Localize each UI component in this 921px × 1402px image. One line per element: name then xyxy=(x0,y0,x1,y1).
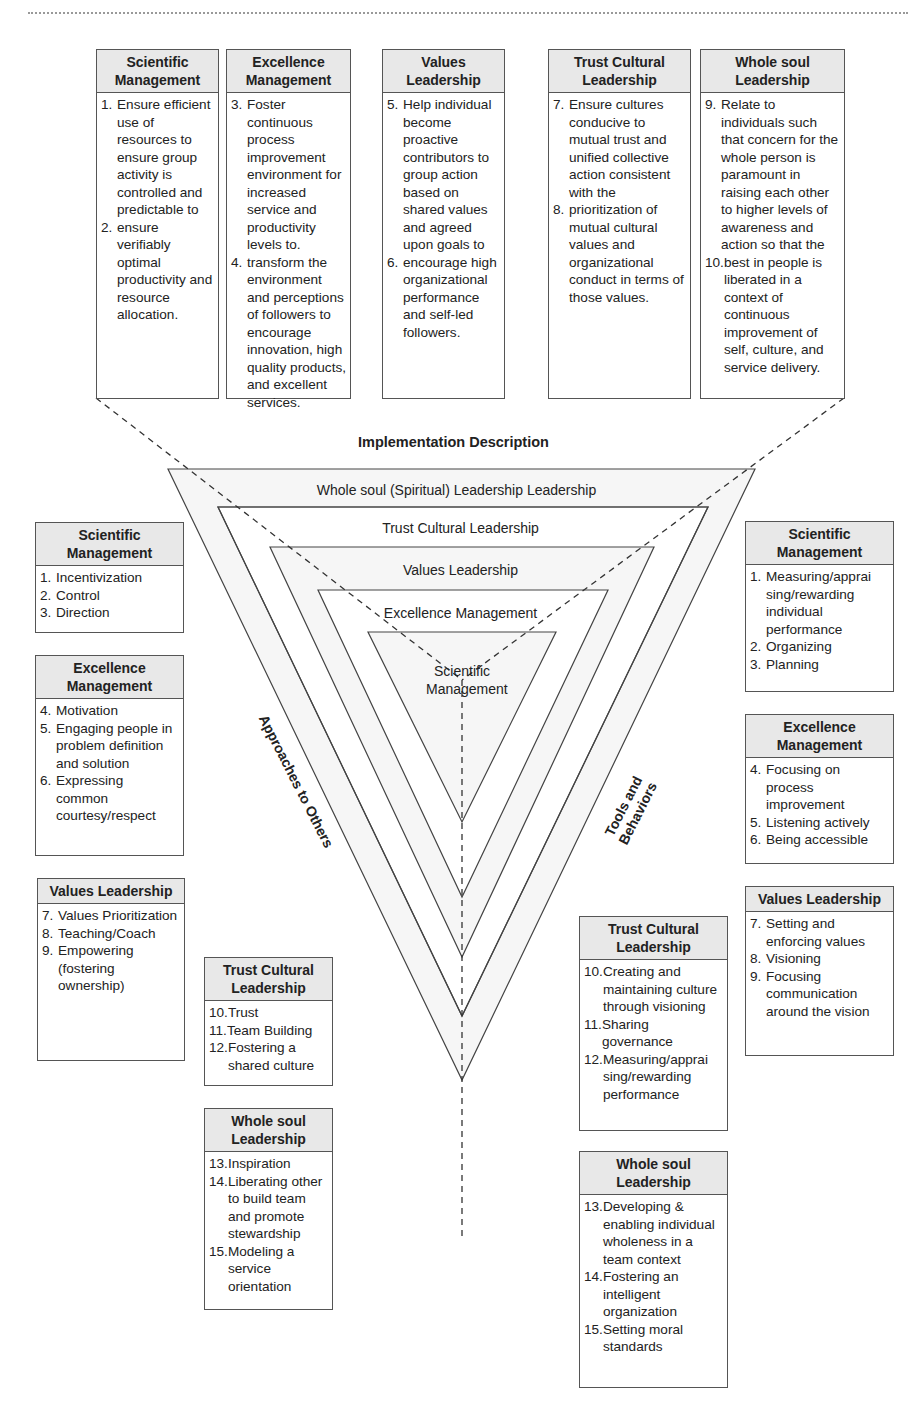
list-item: Control xyxy=(56,587,179,605)
left-box-excellence-management: Excellence Management 4.Motivation 5.Eng… xyxy=(35,655,184,856)
list-item: Relate to individuals such that concern … xyxy=(721,96,840,254)
left-box-trust-cultural-leadership: Trust Cultural Leadership 10.Trust 11.Te… xyxy=(204,957,333,1086)
list-item: Motivation xyxy=(56,702,179,720)
list-item: Setting moral standards xyxy=(603,1321,723,1356)
list-item: Developing & enabling individual wholene… xyxy=(603,1198,723,1268)
list-item: prioritization of mutual cultural values… xyxy=(569,201,686,306)
list-item: Focusing on process improvement xyxy=(766,761,889,814)
list-item: Planning xyxy=(766,656,889,674)
implementation-description-title: Implementation Description xyxy=(358,434,549,450)
list-item: Visioning xyxy=(766,950,889,968)
list-item: best in people is liberated in a context… xyxy=(724,254,840,377)
list-item: Being accessible xyxy=(766,831,889,849)
list-item: Team Building xyxy=(227,1022,328,1040)
list-item: Measuring/apprai sing/rewarding individu… xyxy=(766,568,889,638)
top-box-scientific-management: Scientific Management 1.Ensure efficient… xyxy=(96,49,219,399)
list-item: transform the environment and perception… xyxy=(247,254,346,412)
box-title: Whole soul Leadership xyxy=(580,1152,727,1195)
list-item: Foster continuous process improvement en… xyxy=(247,96,346,254)
list-item: Creating and maintaining culture through… xyxy=(603,963,723,1016)
list-item: Direction xyxy=(56,604,179,622)
list-item: Incentivization xyxy=(56,569,179,587)
right-box-trust-cultural-leadership: Trust Cultural Leadership 10.Creating an… xyxy=(579,916,728,1131)
list-item: Organizing xyxy=(766,638,889,656)
layer-label-whole-soul: Whole soul (Spiritual) Leadership Leader… xyxy=(0,482,917,498)
top-box-trust-cultural-leadership: Trust Cultural Leadership 7.Ensure cultu… xyxy=(548,49,691,399)
list-item: Listening actively xyxy=(766,814,889,832)
box-title: Values Leadership xyxy=(38,879,184,904)
list-item: Fostering an intelligent organization xyxy=(603,1268,723,1321)
list-item: Focusing communication around the vision xyxy=(766,968,889,1021)
list-item: Trust xyxy=(228,1004,328,1022)
list-item: Measuring/apprai sing/rewarding performa… xyxy=(603,1051,723,1104)
list-item: Values Prioritization xyxy=(58,907,180,925)
top-box-whole-soul-leadership: Whole soul Leadership 9.Relate to indivi… xyxy=(700,49,845,399)
list-item: Teaching/Coach xyxy=(58,925,180,943)
box-title: Values Leadership xyxy=(746,887,893,912)
layer-label-scientific: Scientific Management xyxy=(426,662,498,698)
list-item: Ensure efficient use of resources to ens… xyxy=(117,96,214,219)
list-item: Sharing governance xyxy=(602,1016,723,1051)
box-title: Whole soul Leadership xyxy=(205,1109,332,1152)
list-item: ensure verifiably optimal productivity a… xyxy=(117,219,214,324)
left-box-scientific-management: Scientific Management 1.Incentivization … xyxy=(35,522,184,633)
right-box-scientific-management: Scientific Management 1.Measuring/apprai… xyxy=(745,521,894,692)
list-item: encourage high organizational performanc… xyxy=(403,254,500,342)
list-item: Modeling a service orientation xyxy=(228,1243,328,1296)
box-title: Excellence Management xyxy=(227,50,350,93)
box-title: Whole soul Leadership xyxy=(701,50,844,93)
top-box-excellence-management: Excellence Management 3.Foster continuou… xyxy=(226,49,351,399)
box-title: Values Leadership xyxy=(383,50,504,93)
list-item: Setting and enforcing values xyxy=(766,915,889,950)
list-item: Fostering a shared culture xyxy=(228,1039,328,1074)
box-title: Excellence Management xyxy=(746,715,893,758)
box-title: Trust Cultural Leadership xyxy=(549,50,690,93)
box-title: Scientific Management xyxy=(746,522,893,565)
box-title: Trust Cultural Leadership xyxy=(205,958,332,1001)
box-title: Scientific Management xyxy=(36,523,183,566)
list-item: Ensure cultures conducive to mutual trus… xyxy=(569,96,686,201)
box-title: Excellence Management xyxy=(36,656,183,699)
right-box-whole-soul-leadership: Whole soul Leadership 13.Developing & en… xyxy=(579,1151,728,1388)
left-box-values-leadership: Values Leadership 7.Values Prioritizatio… xyxy=(37,878,185,1061)
box-title: Trust Cultural Leadership xyxy=(580,917,727,960)
list-item: Inspiration xyxy=(228,1155,328,1173)
box-title: Scientific Management xyxy=(97,50,218,93)
left-box-whole-soul-leadership: Whole soul Leadership 13.Inspiration 14.… xyxy=(204,1108,333,1310)
list-item: Liberating other to build team and promo… xyxy=(228,1173,328,1243)
list-item: Help individual become proactive contrib… xyxy=(403,96,500,254)
right-box-excellence-management: Excellence Management 4.Focusing on proc… xyxy=(745,714,894,864)
list-item: Engaging people in problem definition an… xyxy=(56,720,179,773)
top-box-values-leadership: Values Leadership 5.Help individual beco… xyxy=(382,49,505,399)
list-item: Empowering (fostering ownership) xyxy=(58,942,180,995)
right-box-values-leadership: Values Leadership 7.Setting and enforcin… xyxy=(745,886,894,1056)
list-item: Expressing common courtesy/respect xyxy=(56,772,179,825)
